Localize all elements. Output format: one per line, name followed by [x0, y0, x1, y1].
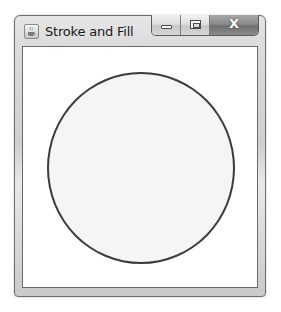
java-coffee-cup-icon[interactable]: [24, 24, 39, 39]
minimize-button[interactable]: [152, 15, 181, 35]
drawing-canvas: [22, 46, 258, 288]
close-button[interactable]: X: [210, 15, 258, 35]
title-bar[interactable]: Stroke and Fill X: [15, 16, 265, 47]
maximize-icon: [190, 20, 201, 29]
close-icon: X: [210, 16, 258, 31]
application-window: Stroke and Fill X: [14, 15, 266, 297]
stroked-filled-circle: [47, 72, 235, 264]
window-title: Stroke and Fill: [45, 24, 134, 39]
minimize-icon: [161, 25, 172, 29]
caption-buttons: X: [151, 15, 259, 36]
maximize-button[interactable]: [181, 15, 210, 35]
